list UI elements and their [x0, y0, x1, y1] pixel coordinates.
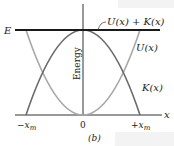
panel-label: (b)	[88, 133, 101, 143]
potential-curve-label: U(x)	[136, 42, 158, 53]
diagram-svg: E U(x) + K(x) U(x) K(x) Energy x −xm 0 +…	[0, 0, 174, 146]
total-label-leader	[98, 22, 106, 30]
x-axis-label: x	[164, 109, 170, 120]
faint-background-patch-top	[118, 0, 174, 8]
tick-neg-xm: −xm	[17, 120, 37, 132]
kinetic-curve-label: K(x)	[141, 82, 163, 93]
energy-diagram: E U(x) + K(x) U(x) K(x) Energy x −xm 0 +…	[0, 0, 174, 146]
tick-zero: 0	[80, 120, 86, 130]
tick-pos-xm-main: +x	[131, 120, 144, 130]
tick-pos-xm-sub: m	[144, 124, 151, 132]
tick-pos-xm: +xm	[131, 120, 151, 132]
tick-neg-xm-main: −x	[17, 120, 30, 130]
faint-background-patch	[115, 132, 174, 146]
tick-neg-xm-sub: m	[30, 124, 37, 132]
y-axis-label: Energy	[72, 46, 82, 80]
total-curve-label: U(x) + K(x)	[107, 16, 165, 27]
energy-level-label: E	[3, 25, 12, 36]
